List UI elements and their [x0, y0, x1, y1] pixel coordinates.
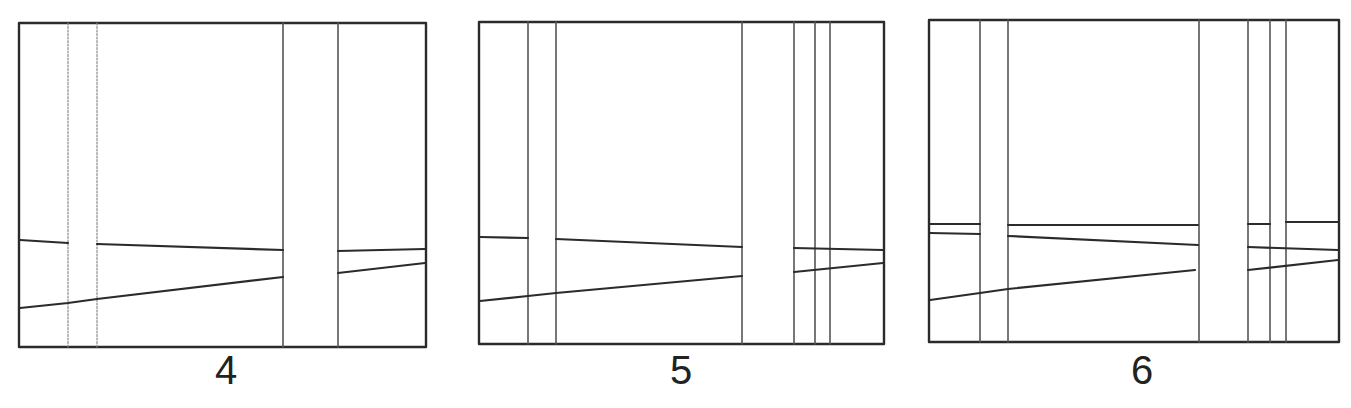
upper-horizontal-line [338, 249, 425, 251]
panel-frame [929, 20, 1339, 342]
lower-sloped-line [480, 276, 742, 301]
upper-horizontal-line [97, 244, 283, 250]
upper-horizontal-line [20, 240, 68, 243]
panel-label-5: 5 [670, 350, 692, 390]
sketch-panel-6 [929, 20, 1339, 342]
upper-horizontal-line [480, 237, 528, 238]
lower-sloped-line [794, 263, 883, 272]
sketch-sequence-canvas [0, 0, 1351, 408]
upper-horizontal-line [930, 233, 980, 234]
lower-sloped-line [338, 263, 425, 273]
upper-horizontal-line [556, 239, 742, 247]
lower-sloped-line [20, 277, 283, 308]
upper-horizontal-line [1248, 247, 1338, 250]
panel-label-6: 6 [1131, 350, 1153, 390]
upper-horizontal-line [1008, 236, 1198, 245]
upper-horizontal-line [794, 248, 883, 250]
sketch-panel-4 [19, 23, 426, 347]
panel-frame [19, 23, 426, 347]
lower-sloped-line [930, 270, 1195, 300]
lower-sloped-line [1248, 260, 1338, 270]
panel-label-4: 4 [215, 350, 237, 390]
sketch-panel-5 [479, 22, 884, 344]
